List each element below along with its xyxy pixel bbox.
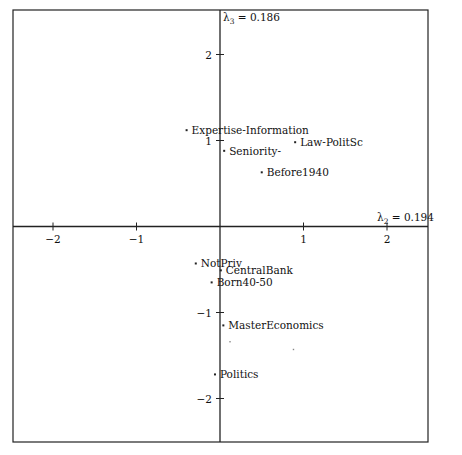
scatter-plot: −2−11221−1−2 Expertise-InformationSenior… (0, 0, 462, 455)
point-marker (211, 281, 213, 283)
point-marker (223, 150, 225, 152)
data-point: Seniority- (223, 145, 281, 157)
y-tick-label: 1 (205, 135, 212, 147)
data-point: CentralBank (220, 264, 294, 276)
point-marker (220, 269, 222, 271)
point-label: Seniority- (229, 145, 281, 157)
data-point: Law-PolitSc (294, 136, 363, 148)
point-marker (293, 349, 294, 350)
point-marker (229, 341, 230, 342)
point-marker (195, 262, 197, 264)
x-tick-label: 2 (384, 233, 391, 245)
data-points: Expertise-InformationSeniority-Law-Polit… (186, 124, 363, 380)
point-marker (261, 171, 263, 173)
y-axis-eigenvalue-label: λ3 = 0.186 (223, 11, 280, 26)
y-tick-label: 2 (205, 49, 212, 61)
point-label: MasterEconomics (228, 319, 323, 331)
point-label: Politics (220, 368, 259, 380)
data-point: Politics (214, 368, 259, 380)
point-label: Before1940 (267, 166, 329, 178)
point-label: Expertise-Information (192, 124, 310, 136)
point-marker (214, 373, 216, 375)
x-tick-label: −2 (45, 233, 60, 245)
data-point: Expertise-Information (186, 124, 310, 136)
data-point: Born40-50 (211, 276, 273, 288)
point-marker (186, 129, 188, 131)
point-label: Law-PolitSc (300, 136, 363, 148)
y-tick-label: −1 (197, 307, 212, 319)
data-point: Before1940 (261, 166, 329, 178)
x-tick-label: −1 (129, 233, 144, 245)
data-point: MasterEconomics (222, 319, 323, 331)
x-axis-eigenvalue-label: λ2 = 0.194 (377, 211, 434, 226)
point-marker (294, 141, 296, 143)
y-tick-label: −2 (197, 393, 212, 405)
point-label: CentralBank (226, 264, 294, 276)
x-tick-label: 1 (300, 233, 307, 245)
point-marker (222, 324, 224, 326)
point-label: Born40-50 (217, 276, 273, 288)
